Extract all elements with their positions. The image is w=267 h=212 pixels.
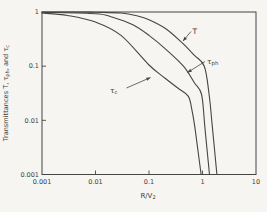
label-tau-c: τc [110,86,118,96]
x-tick-label: 10 [252,178,260,186]
curve-τph [42,12,210,174]
x-tick-label: 0.01 [88,178,102,186]
y-tick-label: 0.001 [20,171,39,179]
y-tick-label: 1 [35,8,39,16]
label-tau-ph: τph [207,57,218,68]
x-tick-label: 1 [200,178,204,186]
y-tick-label: 0.1 [29,62,39,70]
y-tick-label: 0.01 [25,117,39,125]
label-T: T [192,27,198,36]
label-tau-ph-arrowhead-icon [188,69,192,73]
transmittance-log-log-plot: 0.0010.010.111010.10.010.001R/V2Transmit… [0,0,267,212]
transmittance-figure: 0.0010.010.111010.10.010.001R/V2Transmit… [0,0,267,212]
y-axis-title: Transmittances T, τph, and τc [2,45,11,143]
x-axis-title: R/V2 [140,192,155,201]
plot-frame [42,12,256,175]
curve-τc [42,13,201,175]
curve-T [42,12,217,175]
x-tick-label: 0.1 [144,178,154,186]
label-tau-c-arrowhead-icon [146,78,151,81]
